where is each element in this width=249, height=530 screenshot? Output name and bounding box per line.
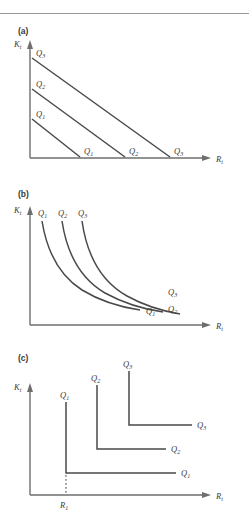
panel-c-label-q2-end: Q2: [171, 444, 180, 455]
panel-b-chart: (b) Kt Rt Q1 Q2 Q3 Q3 Q2 Q1: [0, 180, 249, 345]
panel-a: (a) Kt Rt Q3 Q2 Q1 Q1 Q2 Q3: [0, 18, 249, 178]
top-divider-rule: [0, 13, 249, 14]
panel-b-label-q1-top: Q1: [38, 208, 47, 219]
panel-c-y-axis-label: Kt: [13, 382, 22, 393]
panel-a-label-q3-intercept: Q3: [36, 48, 45, 59]
panel-b: (b) Kt Rt Q1 Q2 Q3 Q3 Q2 Q1: [0, 180, 249, 345]
panel-b-isoquant-q1: [42, 221, 140, 310]
panel-a-label-q1-end: Q1: [84, 146, 93, 157]
panel-a-isoquant-q1: [32, 119, 80, 157]
panel-b-label-q3-top: Q3: [78, 208, 87, 219]
panel-a-tag: (a): [18, 26, 29, 36]
panel-b-x-axis-arrow: [202, 322, 211, 328]
panel-c-label-r1-tick: R1: [59, 500, 68, 511]
panel-a-isoquant-q2: [32, 89, 125, 157]
panel-a-isoquant-q3: [32, 58, 170, 157]
panel-c-chart: (c) Kt Rt Q1 Q2 Q3 Q3 Q2 Q1 R1: [0, 345, 249, 525]
panel-a-x-axis-label: Rt: [215, 154, 223, 165]
panel-b-isoquant-q3: [82, 221, 180, 314]
panel-c-label-q2-top: Q2: [91, 373, 100, 384]
panel-c-label-q3-top: Q3: [123, 359, 132, 370]
panel-c-isoquant-q3: [129, 371, 192, 425]
panel-c-isoquant-q1: [66, 402, 176, 473]
panel-b-label-q3-end: Q3: [168, 287, 177, 298]
panel-b-x-axis-label: Rt: [215, 321, 223, 332]
panel-a-chart: (a) Kt Rt Q3 Q2 Q1 Q1 Q2 Q3: [0, 18, 249, 178]
panel-c: (c) Kt Rt Q1 Q2 Q3 Q3 Q2 Q1 R1: [0, 345, 249, 525]
panel-a-y-axis-arrow: [27, 40, 33, 49]
panel-c-label-q1-top: Q1: [60, 390, 69, 401]
panel-c-label-q3-end: Q3: [197, 420, 206, 431]
panel-a-x-axis-arrow: [202, 155, 211, 161]
panel-a-label-q3-end: Q3: [174, 146, 183, 157]
panel-b-label-q2-end: Q2: [168, 304, 177, 315]
panel-c-y-axis-arrow: [27, 383, 33, 392]
panel-b-y-axis-arrow: [27, 206, 33, 215]
panel-a-label-q2-intercept: Q2: [36, 79, 45, 90]
panel-a-label-q1-intercept: Q1: [36, 109, 45, 120]
panel-b-y-axis-label: Kt: [13, 205, 22, 216]
panel-a-y-axis-label: Kt: [13, 39, 22, 50]
panel-c-x-axis-label: Rt: [215, 491, 223, 502]
panel-c-x-axis-arrow: [202, 492, 211, 498]
panel-c-isoquant-q2: [97, 385, 166, 449]
panel-b-label-q2-top: Q2: [58, 208, 67, 219]
panel-c-tag: (c): [18, 353, 29, 363]
panel-c-label-q1-end: Q1: [181, 468, 190, 479]
panel-b-isoquant-q2: [62, 221, 163, 312]
panel-a-label-q2-end: Q2: [129, 146, 138, 157]
panel-b-tag: (b): [18, 189, 29, 199]
figure-sheet: (a) Kt Rt Q3 Q2 Q1 Q1 Q2 Q3 (b: [0, 0, 249, 530]
